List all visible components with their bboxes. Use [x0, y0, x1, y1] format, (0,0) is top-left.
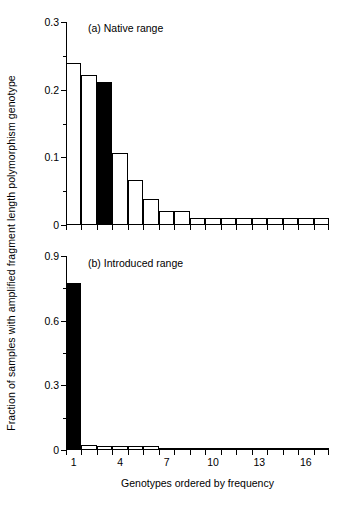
y-tick-minor: [63, 56, 66, 57]
bar: [314, 448, 329, 450]
bar: [112, 153, 127, 225]
x-tick: [66, 225, 67, 230]
bar: [143, 199, 158, 225]
x-tick: [112, 450, 113, 455]
x-tick-label: 7: [164, 457, 170, 468]
bar: [221, 218, 236, 225]
x-tick: [221, 450, 222, 455]
y-tick-label: 0.1: [44, 152, 59, 163]
panel-native-range: (a) Native range 00.10.20.3: [0, 0, 349, 246]
bar: [81, 75, 96, 225]
bar: [236, 218, 251, 225]
y-tick-label: 0.9: [44, 251, 59, 262]
y-tick-label: 0.3: [44, 380, 59, 391]
bar: [174, 211, 189, 225]
bar: [97, 82, 112, 225]
x-tick: [205, 450, 206, 455]
bar: [190, 218, 205, 225]
x-tick: [328, 225, 329, 230]
y-tick-label: 0.6: [44, 315, 59, 326]
y-tick-major: [61, 256, 66, 257]
x-tick: [283, 450, 284, 455]
x-tick: [143, 225, 144, 230]
bar: [283, 448, 298, 450]
x-tick: [190, 225, 191, 230]
x-tick: [283, 225, 284, 230]
x-tick-label: 13: [254, 457, 266, 468]
bar: [252, 448, 267, 450]
x-tick: [81, 225, 82, 230]
x-axis-title: Genotypes ordered by frequency: [66, 478, 329, 489]
bar: [205, 218, 220, 225]
x-tick-label: 10: [207, 457, 219, 468]
x-tick-label: 1: [71, 457, 77, 468]
bar: [236, 448, 251, 450]
plot-area-introduced-range: 00.30.60.9147101316: [66, 256, 329, 450]
bar: [143, 446, 158, 450]
x-tick: [128, 225, 129, 230]
bar: [267, 448, 282, 450]
x-tick: [314, 450, 315, 455]
x-tick: [252, 225, 253, 230]
bar: [81, 445, 96, 450]
x-tick: [267, 450, 268, 455]
bar: [298, 448, 313, 450]
bar: [190, 448, 205, 450]
y-tick-label: 0.3: [44, 17, 59, 28]
x-tick: [298, 450, 299, 455]
bar: [174, 448, 189, 450]
bar: [112, 446, 127, 450]
bar: [283, 218, 298, 225]
x-tick: [221, 225, 222, 230]
x-tick: [159, 225, 160, 230]
x-tick: [159, 450, 160, 455]
x-tick-label: 16: [300, 457, 312, 468]
bar: [128, 180, 143, 225]
x-tick: [236, 450, 237, 455]
x-tick: [112, 225, 113, 230]
x-tick: [328, 450, 329, 455]
x-tick-label: 4: [117, 457, 123, 468]
x-tick: [267, 225, 268, 230]
x-tick: [190, 450, 191, 455]
x-tick: [236, 225, 237, 230]
bar: [314, 218, 329, 225]
x-tick: [174, 450, 175, 455]
figure-bar-chart-pair: Fraction of samples with amplified fragm…: [0, 0, 349, 506]
x-tick: [143, 450, 144, 455]
bar: [128, 446, 143, 450]
x-tick: [128, 450, 129, 455]
bar: [205, 448, 220, 450]
bar: [159, 211, 174, 225]
bar: [66, 283, 81, 450]
x-tick: [314, 225, 315, 230]
y-tick-major: [61, 22, 66, 23]
x-tick: [298, 225, 299, 230]
bar: [267, 218, 282, 225]
panel-introduced-range: (b) Introduced range 00.30.60.9147101316…: [0, 246, 349, 506]
bar: [97, 446, 112, 450]
bar: [221, 448, 236, 450]
x-tick: [97, 225, 98, 230]
y-tick-label: 0: [53, 445, 59, 456]
x-tick: [66, 450, 67, 455]
bar: [66, 63, 81, 225]
x-tick: [97, 450, 98, 455]
y-tick-label: 0.2: [44, 84, 59, 95]
bar: [252, 218, 267, 225]
bar: [298, 218, 313, 225]
x-tick: [252, 450, 253, 455]
x-tick: [174, 225, 175, 230]
plot-area-native-range: 00.10.20.3: [66, 22, 329, 225]
y-tick-label: 0: [53, 220, 59, 231]
x-tick: [205, 225, 206, 230]
bar: [159, 448, 174, 450]
x-tick: [81, 450, 82, 455]
